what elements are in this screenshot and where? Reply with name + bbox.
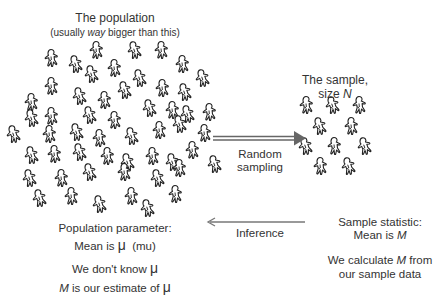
- estimate-text: is our estimate of: [69, 282, 163, 294]
- dont-know-line: We don't know μ: [20, 260, 210, 276]
- mu-symbol: μ: [118, 237, 126, 253]
- m-var: M: [59, 282, 69, 294]
- m-var: M: [397, 254, 407, 266]
- from-text: from: [406, 254, 432, 266]
- random-sampling-line2: sampling: [225, 161, 295, 174]
- mu-symbol: μ: [163, 279, 171, 295]
- random-sampling-line1: Random: [225, 148, 295, 161]
- mu-symbol: μ: [150, 260, 158, 276]
- dont-know-text: We don't know: [72, 263, 150, 275]
- mu-label: (mu): [126, 240, 156, 252]
- m-var: M: [397, 229, 407, 241]
- population-mean-line: Mean is μ (mu): [20, 237, 210, 253]
- sample-mean-line: Mean is M: [325, 229, 435, 242]
- sample-statistic-heading: Sample statistic:: [325, 216, 435, 229]
- population-parameter-block: Population parameter: Mean is μ (mu) We …: [20, 222, 210, 295]
- inference-arrow: [208, 218, 305, 226]
- mean-is-text: Mean is: [74, 240, 117, 252]
- random-sampling-label: Random sampling: [225, 148, 295, 174]
- inference-label: Inference: [225, 227, 295, 240]
- estimate-line: M is our estimate of μ: [20, 279, 210, 295]
- sample-data-line: our sample data: [325, 268, 435, 281]
- calculate-line: We calculate M from: [325, 254, 435, 267]
- mean-is-text: Mean is: [353, 229, 396, 241]
- sample-statistic-block: Sample statistic: Mean is M We calculate…: [325, 216, 435, 281]
- random-sampling-arrow: [213, 131, 306, 146]
- population-parameter-heading: Population parameter:: [20, 222, 210, 235]
- calculate-text: We calculate: [328, 254, 397, 266]
